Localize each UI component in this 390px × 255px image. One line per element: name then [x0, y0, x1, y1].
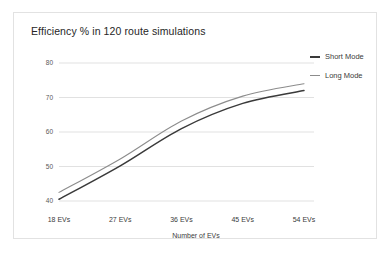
legend-swatch-short-mode — [310, 56, 320, 58]
gridlines — [59, 63, 314, 201]
x-tick-label: 27 EVs — [90, 216, 150, 223]
y-tick-label: 50 — [35, 163, 53, 170]
y-tick-label: 60 — [35, 128, 53, 135]
legend-label-short-mode: Short Mode — [325, 52, 364, 61]
plot-area — [14, 13, 378, 240]
x-tick-label: 54 EVs — [274, 216, 334, 223]
y-tick-label: 80 — [35, 59, 53, 66]
chart-legend: Short Mode Long Mode — [310, 49, 390, 87]
x-tick-label: 45 EVs — [213, 216, 273, 223]
x-tick-label: 18 EVs — [29, 216, 89, 223]
legend-label-long-mode: Long Mode — [325, 71, 363, 80]
y-tick-label: 70 — [35, 94, 53, 101]
y-tick-label: 40 — [35, 197, 53, 204]
x-axis-title: Number of EVs — [14, 232, 378, 239]
x-tick-label: 36 EVs — [152, 216, 212, 223]
legend-swatch-long-mode — [310, 75, 320, 76]
legend-item-long-mode[interactable]: Long Mode — [310, 68, 390, 83]
series-lines — [59, 84, 304, 200]
series-line-long-mode — [59, 84, 304, 193]
series-line-short-mode — [59, 91, 304, 200]
chart-card: Efficiency % in 120 route simulations 80… — [13, 12, 377, 239]
legend-item-short-mode[interactable]: Short Mode — [310, 49, 390, 64]
